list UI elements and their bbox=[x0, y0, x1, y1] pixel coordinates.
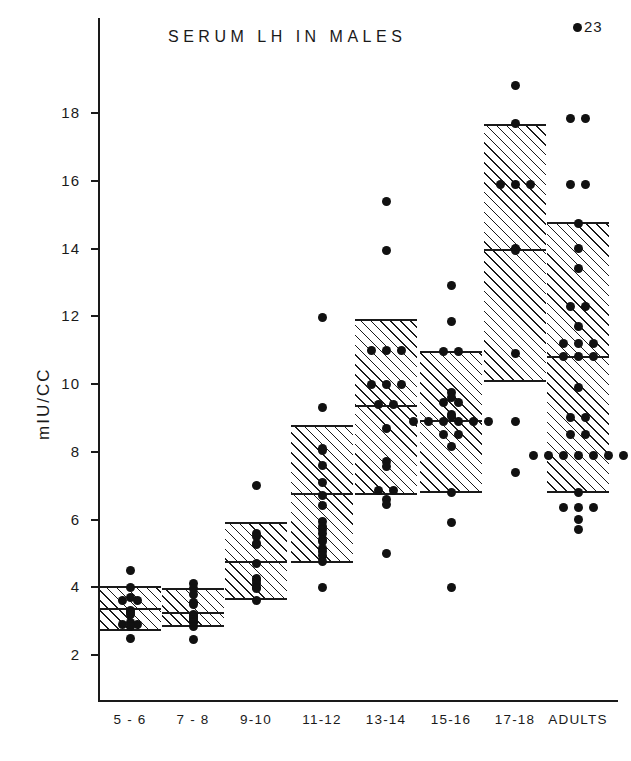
data-point bbox=[526, 180, 535, 189]
x-category-label: ADULTS bbox=[533, 712, 623, 727]
data-point bbox=[469, 417, 478, 426]
data-point bbox=[619, 451, 628, 460]
box-upper-edge bbox=[355, 319, 417, 321]
data-point bbox=[496, 180, 505, 189]
data-point bbox=[409, 417, 418, 426]
data-point bbox=[252, 540, 261, 549]
data-point bbox=[511, 246, 520, 255]
data-point bbox=[252, 584, 261, 593]
box-upper-edge bbox=[420, 351, 482, 353]
data-point bbox=[382, 500, 391, 509]
y-tick-mark bbox=[91, 383, 100, 385]
data-point bbox=[318, 478, 327, 487]
data-point bbox=[581, 114, 590, 123]
outlier-annotation-label: 23 bbox=[584, 18, 603, 35]
data-point bbox=[544, 451, 553, 460]
data-point bbox=[382, 549, 391, 558]
data-point bbox=[382, 380, 391, 389]
data-point bbox=[397, 380, 406, 389]
data-point bbox=[318, 583, 327, 592]
data-point bbox=[318, 446, 327, 455]
data-point bbox=[126, 634, 135, 643]
data-point bbox=[559, 352, 568, 361]
data-point bbox=[511, 81, 520, 90]
y-tick-label: 6 bbox=[46, 511, 80, 528]
y-tick-mark bbox=[91, 180, 100, 182]
data-point bbox=[581, 302, 590, 311]
data-point bbox=[574, 383, 583, 392]
data-point bbox=[318, 491, 327, 500]
y-tick-mark bbox=[91, 519, 100, 521]
data-point bbox=[382, 246, 391, 255]
median-line bbox=[355, 405, 417, 407]
data-point bbox=[529, 451, 538, 460]
data-point bbox=[574, 264, 583, 273]
y-tick-label: 8 bbox=[46, 443, 80, 460]
data-point bbox=[382, 462, 391, 471]
data-point bbox=[566, 302, 575, 311]
y-tick-label: 4 bbox=[46, 578, 80, 595]
data-point bbox=[484, 417, 493, 426]
data-point bbox=[589, 451, 598, 460]
box-upper-edge bbox=[291, 425, 353, 427]
data-point bbox=[574, 515, 583, 524]
data-point bbox=[604, 451, 613, 460]
data-point bbox=[574, 352, 583, 361]
data-point bbox=[581, 180, 590, 189]
data-point bbox=[574, 451, 583, 460]
data-point bbox=[447, 583, 456, 592]
data-point bbox=[447, 442, 456, 451]
data-point bbox=[318, 403, 327, 412]
data-point bbox=[574, 219, 583, 228]
y-tick-label: 12 bbox=[46, 307, 80, 324]
data-point bbox=[318, 461, 327, 470]
data-point bbox=[589, 503, 598, 512]
chart-figure: SERUM LH IN MALES mIU/CC 23 181614121086… bbox=[0, 0, 631, 761]
y-tick-label: 18 bbox=[46, 104, 80, 121]
data-point bbox=[318, 501, 327, 510]
data-point bbox=[566, 180, 575, 189]
data-point bbox=[367, 346, 376, 355]
y-tick-label: 10 bbox=[46, 375, 80, 392]
data-point bbox=[252, 559, 261, 568]
outlier-point bbox=[573, 23, 582, 32]
chart-title: SERUM LH IN MALES bbox=[168, 28, 406, 46]
y-tick-label: 14 bbox=[46, 240, 80, 257]
y-tick-label: 16 bbox=[46, 172, 80, 189]
data-point bbox=[559, 503, 568, 512]
data-point bbox=[447, 317, 456, 326]
y-tick-mark bbox=[91, 315, 100, 317]
data-point bbox=[374, 400, 383, 409]
data-point bbox=[447, 518, 456, 527]
data-point bbox=[126, 566, 135, 575]
data-point bbox=[574, 339, 583, 348]
data-point bbox=[574, 488, 583, 497]
y-tick-mark bbox=[91, 112, 100, 114]
data-point bbox=[574, 525, 583, 534]
data-point bbox=[189, 635, 198, 644]
data-point bbox=[559, 339, 568, 348]
data-point bbox=[318, 557, 327, 566]
data-point bbox=[189, 600, 198, 609]
data-point bbox=[382, 424, 391, 433]
data-point bbox=[424, 417, 433, 426]
data-point bbox=[126, 622, 135, 631]
data-point bbox=[367, 380, 376, 389]
y-tick-mark bbox=[91, 451, 100, 453]
x-axis-line bbox=[98, 700, 618, 702]
data-point bbox=[511, 180, 520, 189]
data-point bbox=[252, 596, 261, 605]
y-tick-mark bbox=[91, 654, 100, 656]
data-point bbox=[318, 313, 327, 322]
y-tick-label: 2 bbox=[46, 646, 80, 663]
data-point bbox=[574, 244, 583, 253]
data-point bbox=[389, 400, 398, 409]
y-tick-mark bbox=[91, 248, 100, 250]
data-point bbox=[382, 197, 391, 206]
box-lower-edge bbox=[484, 380, 546, 382]
data-point bbox=[447, 488, 456, 497]
data-point bbox=[559, 451, 568, 460]
data-point bbox=[252, 481, 261, 490]
data-point bbox=[589, 339, 598, 348]
data-point bbox=[574, 322, 583, 331]
